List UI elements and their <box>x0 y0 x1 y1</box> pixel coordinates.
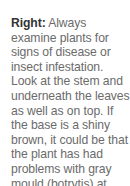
caption-body: Always examine plants for signs of disea… <box>11 16 130 186</box>
caption-lead: Right: <box>11 16 46 30</box>
photo-caption: Right: Always examine plants for signs o… <box>11 16 130 186</box>
